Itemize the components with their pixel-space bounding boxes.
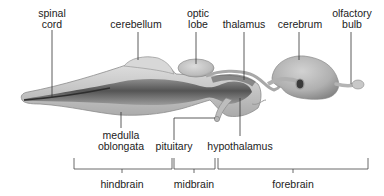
region-brackets bbox=[74, 158, 368, 173]
midbrain-bracket bbox=[174, 158, 215, 169]
label-line: hypothalamus bbox=[207, 141, 272, 152]
label-pituitary: pituitary bbox=[156, 141, 193, 152]
label-line: cerebellum bbox=[110, 19, 161, 30]
label-cerebellum: cerebellum bbox=[110, 19, 161, 30]
label-line: cord bbox=[38, 19, 65, 30]
hindbrain-bracket bbox=[74, 158, 172, 169]
label-line: pituitary bbox=[156, 141, 193, 152]
label-line: lobe bbox=[187, 19, 209, 30]
label-spinal-cord: spinal cord bbox=[38, 8, 65, 30]
label-line: thalamus bbox=[223, 19, 266, 30]
label-line: bulb bbox=[332, 19, 372, 30]
label-hypothalamus: hypothalamus bbox=[207, 141, 272, 152]
label-forebrain: forebrain bbox=[272, 179, 313, 190]
pituitary-shape bbox=[214, 116, 219, 121]
label-midbrain: midbrain bbox=[174, 179, 214, 190]
ventricle-opening bbox=[296, 79, 304, 89]
label-hindbrain: hindbrain bbox=[100, 179, 143, 190]
label-olfactory-bulb: olfactory bulb bbox=[332, 8, 372, 30]
label-thalamus: thalamus bbox=[223, 19, 266, 30]
label-optic-lobe: optic lobe bbox=[187, 8, 209, 30]
label-line: cerebrum bbox=[278, 19, 322, 30]
brain-diagram: spinal cord cerebellum optic lobe thalam… bbox=[0, 0, 384, 196]
label-line: oblongata bbox=[98, 141, 144, 152]
label-medulla-oblongata: medulla oblongata bbox=[98, 130, 144, 152]
olfactory-bulb-shape bbox=[352, 80, 364, 89]
label-cerebrum: cerebrum bbox=[278, 19, 322, 30]
forebrain-bracket bbox=[218, 158, 368, 169]
